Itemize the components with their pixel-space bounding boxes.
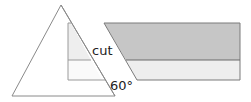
- strip-light-band: [126, 60, 240, 80]
- inner-top-section: [68, 23, 91, 60]
- cut-triangle-diagram: cut 60°: [0, 0, 251, 102]
- strip-dark-band: [104, 23, 240, 60]
- angle-label: 60°: [110, 78, 133, 93]
- cut-label: cut: [92, 43, 112, 58]
